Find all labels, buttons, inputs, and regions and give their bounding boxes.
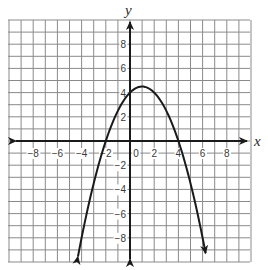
y-tick-label: −4 [115, 184, 127, 195]
coordinate-plane: −8−6−4−2024688642−2−4−6−8 x y [0, 0, 268, 270]
x-tick-label: 8 [224, 148, 230, 159]
x-tick-label: −4 [76, 148, 88, 159]
x-axis-label: x [253, 133, 261, 149]
y-tick-label: 6 [120, 63, 126, 74]
x-tick-label: −8 [27, 148, 39, 159]
y-tick-label: 2 [120, 112, 126, 123]
y-tick-label: 8 [120, 39, 126, 50]
x-tick-label: −6 [52, 148, 64, 159]
y-tick-label: −8 [115, 233, 127, 244]
y-tick-label: −6 [115, 209, 127, 220]
y-tick-label: −2 [115, 160, 127, 171]
x-tick-label: 2 [151, 148, 157, 159]
axes [16, 22, 247, 259]
y-axis-label: y [123, 2, 132, 18]
x-tick-label: 6 [200, 148, 206, 159]
x-tick-label: 0 [133, 148, 139, 159]
